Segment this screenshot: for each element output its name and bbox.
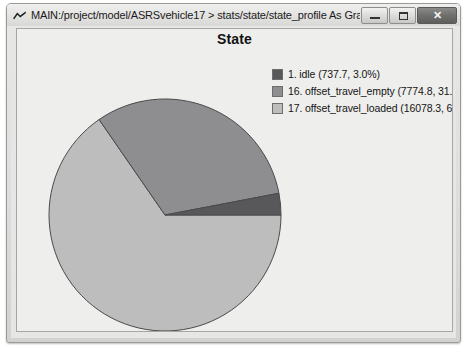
legend-item[interactable]: 16. offset_travel_empty (7774.8, 31.6% (272, 84, 453, 98)
maximize-button[interactable] (389, 7, 416, 24)
legend-swatch-offset-travel-empty (272, 86, 283, 97)
chart-legend: 1. idle (737.7, 3.0%) 16. offset_travel_… (272, 67, 453, 118)
window-controls: ✕ (360, 6, 457, 24)
legend-label-idle: 1. idle (737.7, 3.0%) (288, 68, 380, 80)
client-area: State 1. idle (737.7, 3.0%) (11, 28, 456, 338)
chart-title: State (17, 31, 452, 47)
legend-swatch-offset-travel-loaded (272, 103, 283, 114)
chevron-mountain-icon (12, 9, 27, 22)
graph-window: MAIN:/project/model/ASRSvehicle17 > stat… (6, 3, 461, 343)
legend-swatch-idle (272, 69, 283, 80)
graph-panel[interactable]: State 1. idle (737.7, 3.0%) (16, 28, 453, 332)
title-bar[interactable]: MAIN:/project/model/ASRSvehicle17 > stat… (7, 4, 460, 26)
maximize-icon (399, 12, 408, 20)
pie-chart-svg (17, 51, 297, 331)
pie-chart[interactable] (17, 51, 297, 331)
minimize-button[interactable] (361, 7, 388, 24)
legend-label-offset-travel-empty: 16. offset_travel_empty (7774.8, 31.6% (288, 85, 453, 97)
legend-label-offset-travel-loaded: 17. offset_travel_loaded (16078.3, 65.4° (288, 102, 453, 114)
close-button[interactable]: ✕ (417, 7, 457, 24)
legend-item[interactable]: 1. idle (737.7, 3.0%) (272, 67, 453, 81)
legend-item[interactable]: 17. offset_travel_loaded (16078.3, 65.4° (272, 101, 453, 115)
minimize-icon (370, 17, 380, 19)
window-title: MAIN:/project/model/ASRSvehicle17 > stat… (31, 8, 360, 22)
close-icon: ✕ (418, 8, 456, 23)
